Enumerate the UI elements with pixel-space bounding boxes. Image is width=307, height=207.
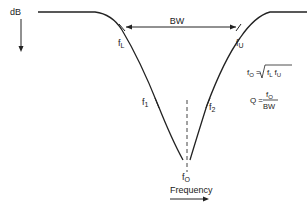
center-frequency-formula: fO= fLfU <box>247 65 292 78</box>
f2-label: f2 <box>209 102 216 113</box>
f1-tick <box>155 98 159 108</box>
bandwidth-label: BW <box>170 16 185 26</box>
notch-response-diagram: dB BW fL fU f1 f2 fO Frequency fO= <box>0 0 307 207</box>
f1-label: f1 <box>142 97 149 108</box>
fl-label: fL <box>118 38 125 49</box>
svg-text:f2: f2 <box>209 102 216 113</box>
svg-text:BW: BW <box>263 102 276 111</box>
svg-text:Q=: Q= <box>250 96 263 105</box>
svg-text:fL: fL <box>118 38 125 49</box>
svg-text:fU: fU <box>236 38 244 49</box>
svg-text:fO: fO <box>266 90 273 100</box>
fu-label: fU <box>236 38 244 49</box>
response-curve-right <box>190 12 307 160</box>
response-curve-left <box>38 12 183 160</box>
f0-label: fO <box>182 172 191 183</box>
fu-tick <box>236 24 241 31</box>
x-axis-arrow-icon <box>170 197 209 202</box>
x-axis-label: Frequency <box>170 185 213 195</box>
svg-text:fO: fO <box>182 172 191 183</box>
svg-text:fLfU: fLfU <box>267 68 281 78</box>
svg-text:fO=: fO= <box>247 68 261 78</box>
svg-text:f1: f1 <box>142 97 149 108</box>
quality-factor-formula: Q= fO BW <box>250 90 278 111</box>
y-axis-label: dB <box>10 7 21 17</box>
y-axis-arrow-icon <box>19 19 24 52</box>
